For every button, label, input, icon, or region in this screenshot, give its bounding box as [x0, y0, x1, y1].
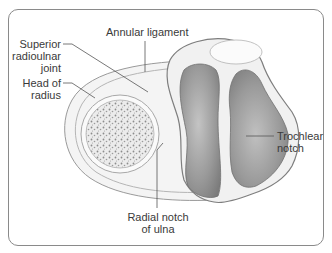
- radial-notch-facet: [180, 64, 221, 198]
- ulna: [167, 39, 299, 203]
- label-head-of-radius: Head of radius: [6, 77, 61, 101]
- label-annular-ligament: Annular ligament: [106, 26, 189, 38]
- label-trochlear-notch: Trochlear notch: [277, 130, 323, 154]
- label-superior-radioulnar-joint: Superior radioulnar joint: [6, 38, 61, 74]
- label-radial-notch-of-ulna: Radial notch of ulna: [122, 211, 194, 235]
- head-of-radius: [81, 95, 159, 173]
